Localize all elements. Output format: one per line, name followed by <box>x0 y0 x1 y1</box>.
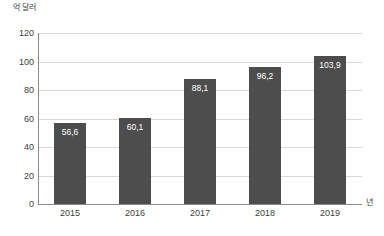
x-tick-label-2015: 2015 <box>38 208 102 219</box>
y-tick-label-100: 100 <box>2 58 34 67</box>
bar-2016[interactable]: 60,1 <box>119 118 151 204</box>
x-tick-label-2017: 2017 <box>168 208 232 219</box>
y-tick-label-120: 120 <box>2 29 34 38</box>
bar-value-2015: 56,6 <box>54 127 86 137</box>
bar-2015[interactable]: 56,6 <box>54 123 86 204</box>
y-tick-label-80: 80 <box>2 86 34 95</box>
x-tick-label-2016: 2016 <box>103 208 167 219</box>
bar-2019[interactable]: 103,9 <box>314 56 346 204</box>
bar-value-2017: 88,1 <box>184 83 216 93</box>
y-tick-label-20: 20 <box>2 172 34 181</box>
bar-2018[interactable]: 96,2 <box>249 67 281 204</box>
x-axis-unit-label: 년 <box>366 198 373 208</box>
bar-chart: 억 달러 120 100 80 60 40 20 0 56,6 60,1 88,… <box>0 0 384 236</box>
y-tick-label-60: 60 <box>2 115 34 124</box>
bar-value-2018: 96,2 <box>249 71 281 81</box>
y-tick-label-40: 40 <box>2 143 34 152</box>
x-axis-tick-labels: 2015 2016 2017 2018 2019 <box>38 208 362 222</box>
x-tick-label-2018: 2018 <box>233 208 297 219</box>
y-tick-label-0: 0 <box>2 200 34 209</box>
bar-series: 56,6 60,1 88,1 96,2 103,9 <box>38 33 362 204</box>
bar-2017[interactable]: 88,1 <box>184 79 216 205</box>
y-axis-unit-label: 억 달러 <box>13 3 36 13</box>
bar-value-2019: 103,9 <box>314 60 346 70</box>
bar-value-2016: 60,1 <box>119 122 151 132</box>
axis-baseline <box>38 204 362 205</box>
x-tick-label-2019: 2019 <box>298 208 362 219</box>
